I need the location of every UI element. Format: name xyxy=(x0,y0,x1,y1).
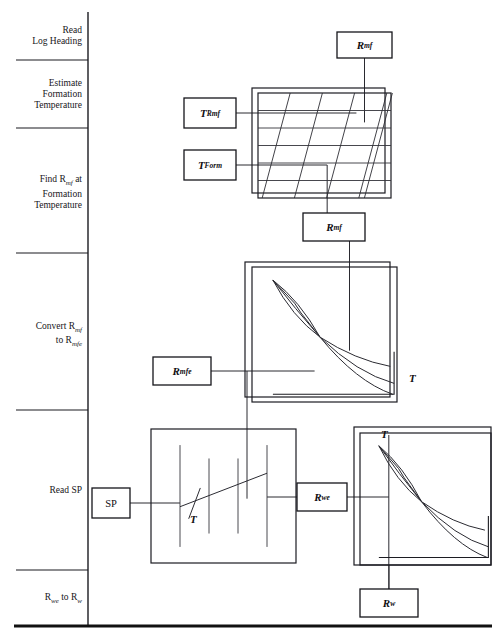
connector-lines xyxy=(130,58,389,589)
box-label-rw: Rw xyxy=(360,589,418,617)
flowchart-page: ReadLog HeadingEstimateFormationTemperat… xyxy=(0,0,504,640)
sidebar-stage-read-log-heading: ReadLog Heading xyxy=(6,25,82,47)
sidebar-stage-convert-rmf-to-rmfe: Convert Rmfto Rmfe xyxy=(6,321,82,351)
box-label-rmfe: Rmfe xyxy=(153,357,211,385)
sidebar-stage-rwe-to-rw: Rwe to Rw xyxy=(6,592,82,607)
box-label-rmf-mid: Rmf xyxy=(303,213,365,241)
box-outlines xyxy=(92,32,418,617)
temperature-mark-t-chart3: T xyxy=(381,428,388,440)
box-label-rmf-top: Rmf xyxy=(337,32,392,58)
sidebar-stage-read-sp: Read SP xyxy=(6,485,82,496)
box-label-sp: SP xyxy=(92,488,130,518)
sidebar-stage-find-rmf-at-formation-temperature: Find Rmf atFormationTemperature xyxy=(6,174,82,211)
temperature-mark-t-sp-chart: T xyxy=(190,513,197,525)
box-label-t-rmf: TRmf xyxy=(184,98,236,128)
temperature-mark-t-chart2: T xyxy=(409,372,416,384)
sidebar-stage-estimate-formation-temperature: EstimateFormationTemperature xyxy=(6,78,82,111)
box-label-t-form: TForm xyxy=(184,150,236,180)
box-label-rwe: Rwe xyxy=(297,483,347,511)
